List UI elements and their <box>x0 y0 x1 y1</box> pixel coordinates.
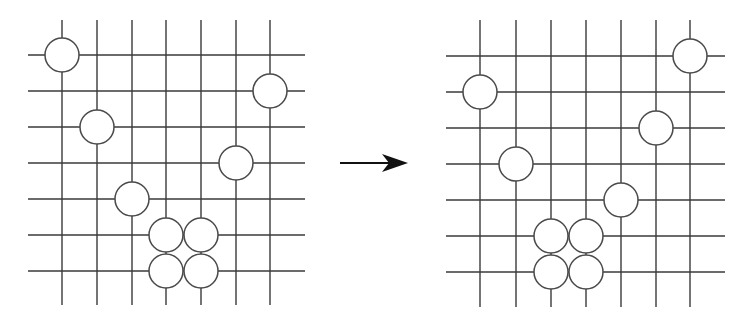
stone <box>149 218 183 252</box>
stone <box>534 219 568 253</box>
stone <box>639 111 673 145</box>
stone <box>45 38 79 72</box>
stone <box>253 74 287 108</box>
stone <box>463 75 497 109</box>
stone <box>604 183 638 217</box>
stone <box>149 254 183 288</box>
stone <box>184 218 218 252</box>
stone <box>115 182 149 216</box>
diagram-canvas <box>0 0 746 321</box>
stone <box>534 255 568 289</box>
stone <box>673 39 707 73</box>
stone <box>569 255 603 289</box>
stone <box>499 147 533 181</box>
stone <box>80 110 114 144</box>
stone <box>184 254 218 288</box>
stone <box>569 219 603 253</box>
transition-arrow-icon <box>340 154 408 172</box>
board-before <box>28 20 305 305</box>
stone <box>219 146 253 180</box>
board-after <box>446 20 725 307</box>
